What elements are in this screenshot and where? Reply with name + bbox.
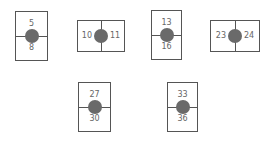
box-number-bottom: 8 [16,44,47,52]
box-13-16: 13 16 [151,10,182,60]
box-number-left: 10 [82,32,92,40]
box-number-top: 27 [79,91,110,99]
center-dot [25,29,39,43]
center-dot [228,29,242,43]
box-23-24: 23 24 [210,20,260,52]
box-number-bottom: 16 [152,43,181,51]
box-number-top: 33 [168,91,197,99]
box-number-bottom: 30 [79,115,110,123]
box-number-bottom: 36 [168,115,197,123]
box-number-top: 13 [152,19,181,27]
box-10-11: 10 11 [77,20,125,52]
center-dot [94,29,108,43]
box-5-8: 5 8 [15,11,48,61]
box-number-top: 5 [16,20,47,28]
box-number-right: 11 [110,32,120,40]
center-dot [160,28,174,42]
box-27-30: 27 30 [78,82,111,132]
box-number-right: 24 [244,32,254,40]
center-dot [88,100,102,114]
box-number-left: 23 [216,32,226,40]
center-dot [176,100,190,114]
box-33-36: 33 36 [167,82,198,132]
